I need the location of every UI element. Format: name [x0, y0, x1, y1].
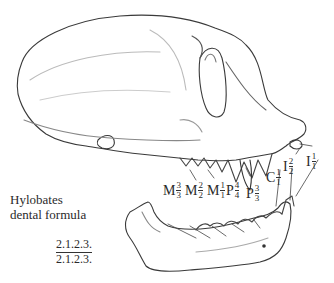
- formula-upper: 2.1.2.3.: [56, 238, 92, 253]
- upper-teeth: [180, 154, 272, 182]
- tooth-fraction: 22: [289, 157, 294, 176]
- genus-label: Hylobates: [10, 192, 86, 207]
- tooth-lower: 4: [235, 191, 240, 200]
- tooth-lower: 2: [289, 167, 294, 176]
- formula-lower: 2.1.2.3.: [56, 253, 92, 266]
- tooth-label-c1: C 11: [266, 168, 281, 187]
- tooth-fraction: 11: [220, 181, 225, 200]
- tooth-lower: 3: [255, 194, 260, 203]
- tooth-letter: I: [306, 155, 311, 169]
- tooth-fraction: 11: [276, 168, 281, 187]
- tooth-letter: M: [207, 184, 219, 198]
- tooth-letter: C: [266, 171, 275, 185]
- orbit: [199, 48, 226, 117]
- tooth-fraction: 33: [255, 184, 260, 203]
- tooth-label-m3: M 33: [163, 181, 181, 200]
- dental-formula: 2.1.2.3. 2.1.2.3.: [56, 238, 92, 266]
- tooth-letter: M: [163, 184, 175, 198]
- tooth-fraction: 44: [235, 181, 240, 200]
- tooth-lower: 1: [276, 178, 281, 187]
- lower-teeth: [196, 212, 282, 230]
- tooth-letter: P: [246, 187, 254, 201]
- tooth-label-i2: I 22: [283, 157, 293, 176]
- tooth-label-p4: P 44: [226, 181, 239, 200]
- tooth-label-m1: M 11: [207, 181, 225, 200]
- tooth-label-p3: P 33: [246, 184, 259, 203]
- tooth-letter: I: [283, 160, 288, 174]
- formula-label: dental formula: [10, 207, 86, 222]
- tooth-letter: P: [226, 184, 234, 198]
- tooth-lower: 2: [198, 191, 203, 200]
- tooth-fraction: 11: [312, 152, 317, 171]
- skull-illustration: [0, 0, 334, 283]
- tooth-lower: 3: [176, 191, 181, 200]
- tooth-letter: M: [185, 184, 197, 198]
- tooth-fraction: 33: [176, 181, 181, 200]
- tooth-lower: 1: [220, 191, 225, 200]
- tooth-fraction: 22: [198, 181, 203, 200]
- tooth-label-i1: I 11: [306, 152, 316, 171]
- dental-formula-caption: Hylobates dental formula: [10, 192, 86, 222]
- tooth-label-m2: M 22: [185, 181, 203, 200]
- tooth-lower: 1: [312, 162, 317, 171]
